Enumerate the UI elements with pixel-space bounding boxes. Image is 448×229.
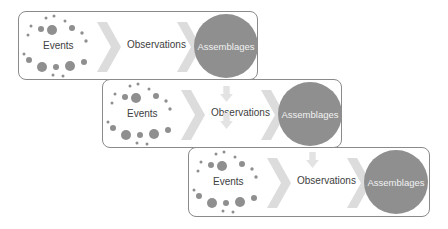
assemblages-circle: Assemblages (278, 82, 342, 146)
events-label: Events (213, 176, 244, 187)
assemblages-circle: Assemblages (194, 14, 258, 78)
process-panel-1: Events Observations Assemblages (18, 11, 258, 80)
arrow-down-icon (220, 113, 233, 129)
assemblages-label: Assemblages (281, 109, 338, 120)
assemblages-label: Assemblages (197, 41, 254, 52)
assemblages-circle: Assemblages (364, 150, 428, 214)
chevron-right-icon (181, 90, 205, 140)
arrow-down-icon (220, 86, 233, 102)
diagram-canvas: Events Observations Assemblages Events O… (0, 0, 448, 229)
events-label: Events (127, 108, 158, 119)
assemblages-label: Assemblages (367, 177, 424, 188)
chevron-right-icon (267, 158, 291, 208)
events-label: Events (43, 40, 74, 51)
arrow-down-icon (306, 152, 319, 168)
chevron-right-icon (97, 22, 121, 72)
